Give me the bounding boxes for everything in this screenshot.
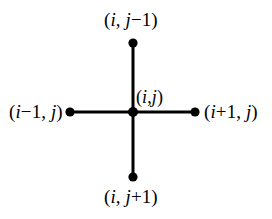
label-up-comma: , xyxy=(116,9,126,30)
node-dot-down xyxy=(128,172,137,181)
node-label-right: (i+1, j) xyxy=(204,102,258,121)
label-down-close-paren: ) xyxy=(151,186,157,207)
node-label-up: (i, j−1) xyxy=(104,10,158,29)
label-left-comma: , xyxy=(41,101,51,122)
node-label-left: (i−1, j) xyxy=(9,102,63,121)
label-right-comma: , xyxy=(236,101,246,122)
node-dot-right xyxy=(190,107,199,116)
label-center-close-paren: ) xyxy=(157,87,163,107)
label-down-operator: +1 xyxy=(131,186,151,207)
label-left-close-paren: ) xyxy=(56,101,62,122)
label-right-close-paren: ) xyxy=(251,101,257,122)
node-dot-center xyxy=(128,107,138,117)
node-label-down: (i, j+1) xyxy=(104,187,158,206)
label-right-operator: +1 xyxy=(216,101,236,122)
stencil-figure: (i, j−1) (i−1, j) (i,j) (i+1, j) (i, j+1… xyxy=(0,0,272,219)
label-up-close-paren: ) xyxy=(151,9,157,30)
node-label-center: (i,j) xyxy=(136,88,163,106)
label-left-operator: −1 xyxy=(21,101,41,122)
node-dot-up xyxy=(128,38,137,47)
node-dot-left xyxy=(65,107,74,116)
label-up-operator: −1 xyxy=(131,9,151,30)
label-down-comma: , xyxy=(116,186,126,207)
